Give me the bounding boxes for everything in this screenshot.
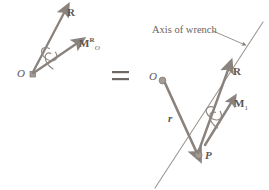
- moment-m1-subscript: 1: [245, 104, 249, 112]
- left-resultant-moment-base: M: [79, 37, 90, 49]
- figure-vector-graphics: [0, 0, 269, 190]
- axis-annotation-leader-line: [213, 31, 243, 44]
- left-resultant-moment-label: MRO: [79, 37, 100, 52]
- left-system-group: [30, 13, 76, 77]
- left-resultant-force-label: R: [67, 7, 75, 18]
- equals-sign-glyph: [112, 71, 129, 80]
- left-resultant-moment-subscript: O: [95, 44, 100, 52]
- wrench-resultant-figure: R MRO O Axis of wrench O R M1 r P: [0, 0, 269, 190]
- right-origin-label: O: [149, 71, 157, 82]
- left-resultant-moment-superscript: R: [90, 36, 95, 44]
- moment-m1-base: M: [234, 97, 245, 109]
- moment-m1-label: M1: [234, 98, 248, 112]
- point-p-label: P: [205, 150, 212, 161]
- position-vector-label: r: [168, 113, 172, 124]
- axis-of-wrench-label: Axis of wrench: [152, 25, 217, 36]
- left-origin-label: O: [17, 68, 25, 79]
- right-resultant-force-label: R: [233, 66, 241, 77]
